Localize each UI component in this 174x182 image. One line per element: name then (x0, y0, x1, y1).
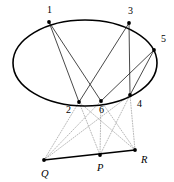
vertex-label-1: 1 (47, 4, 52, 15)
chord-3-2 (79, 23, 129, 102)
dotted-q-2 (44, 102, 79, 160)
pascal-figure-canvas: 123456QPR (0, 0, 174, 182)
vertex-label-3: 3 (128, 5, 133, 16)
vertex-label-4: 4 (137, 98, 142, 109)
pascal-figure-svg: 123456QPR (0, 0, 174, 182)
pascal-point-dot-Q (42, 158, 46, 162)
dotted-q-6 (44, 101, 101, 160)
pascal-point-dot-R (133, 148, 137, 152)
chord-5-4 (130, 50, 154, 95)
dotted-q-4 (44, 95, 130, 160)
chord-5-6 (101, 50, 154, 101)
vertex-label-6: 6 (99, 104, 104, 115)
vertex-label-2: 2 (66, 104, 71, 115)
vertex-label-5: 5 (161, 33, 166, 44)
vertex-dot-6 (99, 99, 103, 103)
vertex-dot-5 (152, 48, 156, 52)
vertex-dot-2 (77, 100, 81, 104)
chord-1-6 (49, 22, 101, 101)
projection-lines-group (44, 95, 135, 160)
vertex-dot-3 (127, 21, 131, 25)
pascal-point-dot-P (98, 153, 102, 157)
vertex-dot-1 (47, 20, 51, 24)
pascal-line (44, 150, 135, 160)
pascal-point-label-P: P (96, 162, 104, 173)
pascal-point-label-R: R (140, 154, 148, 165)
dotted-p-2 (79, 102, 100, 155)
chord-3-4 (129, 23, 130, 95)
dotted-r-4 (130, 95, 135, 150)
pascal-point-label-Q: Q (41, 168, 49, 179)
chord-1-2 (49, 22, 79, 102)
vertex-dot-4 (128, 93, 132, 97)
